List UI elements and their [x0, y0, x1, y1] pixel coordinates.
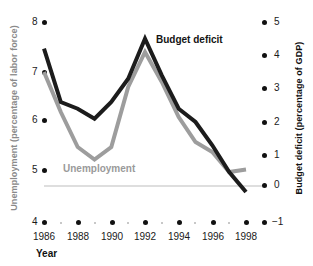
chart-container: Unemployment (percentage of labor force)… — [0, 0, 313, 266]
series-label-unemployment: Unemployment — [63, 163, 135, 174]
series-label-budget-deficit: Budget deficit — [156, 34, 223, 45]
